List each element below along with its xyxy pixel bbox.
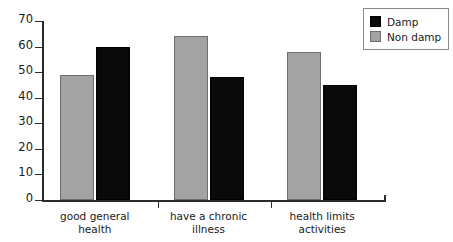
y-axis-tick-label-text: 70 <box>5 14 33 25</box>
y-axis-tick <box>35 98 43 99</box>
y-axis-tick-label-text: 40 <box>5 91 33 102</box>
y-axis-tick <box>35 174 43 175</box>
bar-non-damp <box>287 52 321 200</box>
y-axis-tick <box>35 123 43 124</box>
x-axis-category-label-line: good general <box>35 210 155 223</box>
x-axis-tick <box>271 201 272 208</box>
x-axis-category-label: good generalhealth <box>35 210 155 236</box>
bar-damp <box>210 77 244 200</box>
y-axis-tick-label-text: 30 <box>5 116 33 127</box>
x-axis-category-label-line: health <box>35 223 155 236</box>
x-axis-category-label: have a chronicillness <box>149 210 269 236</box>
x-axis-category-label-line: health limits <box>262 210 382 223</box>
y-axis-tick <box>35 72 43 73</box>
legend-item[interactable]: Damp <box>370 14 441 29</box>
x-axis-tick <box>158 201 159 208</box>
legend-swatch-icon <box>370 31 381 42</box>
y-axis-tick-label-text: 0 <box>5 193 33 204</box>
bar-non-damp <box>174 36 208 200</box>
y-axis-tick-label-text: 50 <box>5 65 33 76</box>
bar-chart: 010203040506070 good generalhealthhave a… <box>0 0 453 242</box>
bar-damp <box>323 85 357 200</box>
legend-item-label: Non damp <box>387 31 441 43</box>
x-axis-category-label-line: illness <box>149 223 269 236</box>
bar-non-damp <box>60 75 94 200</box>
y-axis-tick <box>35 21 43 22</box>
x-axis-category-label: health limitsactivities <box>262 210 382 236</box>
chart-legend: DampNon damp <box>363 8 449 50</box>
y-axis-tick <box>35 149 43 150</box>
y-axis-tick-label-text: 20 <box>5 142 33 153</box>
x-axis-category-label-line: activities <box>262 223 382 236</box>
legend-item[interactable]: Non damp <box>370 29 441 44</box>
y-axis-tick-label-text: 60 <box>5 40 33 51</box>
x-axis-line <box>42 200 386 202</box>
plot-area <box>44 22 385 200</box>
y-axis-tick-label-text: 10 <box>5 167 33 178</box>
bar-damp <box>96 47 130 200</box>
x-axis-category-label-line: have a chronic <box>149 210 269 223</box>
y-axis-tick <box>35 47 43 48</box>
legend-swatch-icon <box>370 16 381 27</box>
legend-item-label: Damp <box>387 16 418 28</box>
